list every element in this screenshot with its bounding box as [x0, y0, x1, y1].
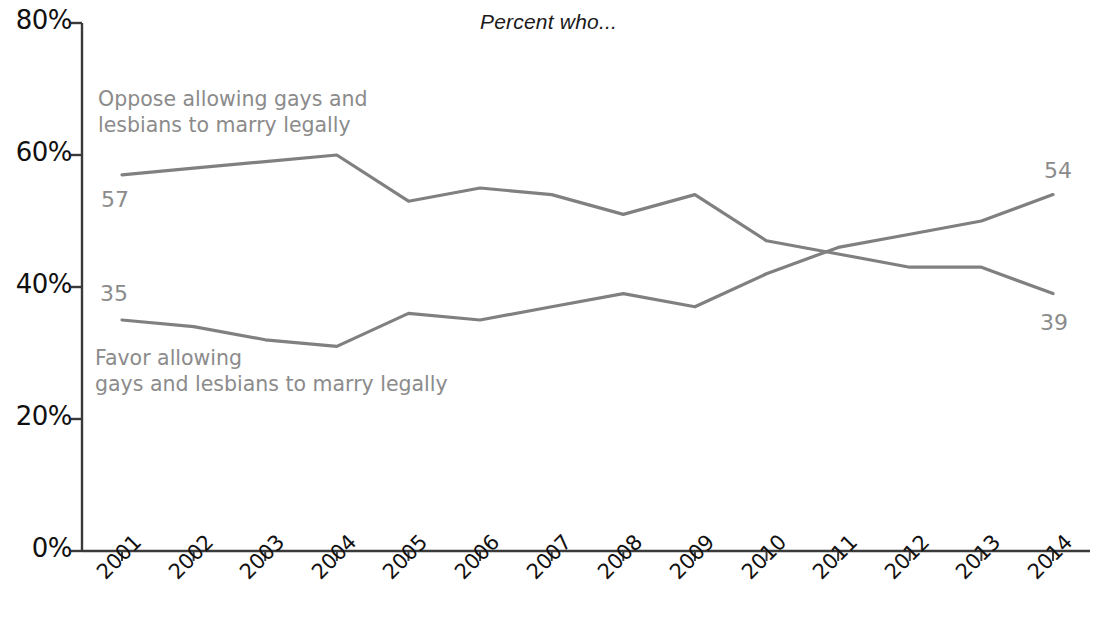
- series-lines: [122, 155, 1053, 346]
- favor-start-value-label: 35: [100, 281, 128, 306]
- y-tick-label-0: 0%: [0, 533, 72, 563]
- y-tick-label-20: 20%: [0, 401, 72, 431]
- series-label-favor: Favor allowing gays and lesbians to marr…: [95, 345, 448, 397]
- oppose-start-value-label: 57: [101, 187, 129, 212]
- y-tick-label-40: 40%: [0, 269, 72, 299]
- y-tick-label-60: 60%: [0, 137, 72, 167]
- favor-end-value-label: 54: [1044, 158, 1072, 183]
- chart-container: Percent who... 0%20%40%60%80% 2001200220…: [0, 0, 1097, 641]
- series-label-oppose: Oppose allowing gays and lesbians to mar…: [98, 86, 367, 138]
- series-line-oppose: [122, 155, 1053, 294]
- oppose-end-value-label: 39: [1040, 310, 1068, 335]
- series-line-favor: [122, 195, 1053, 347]
- y-tick-label-80: 80%: [0, 5, 72, 35]
